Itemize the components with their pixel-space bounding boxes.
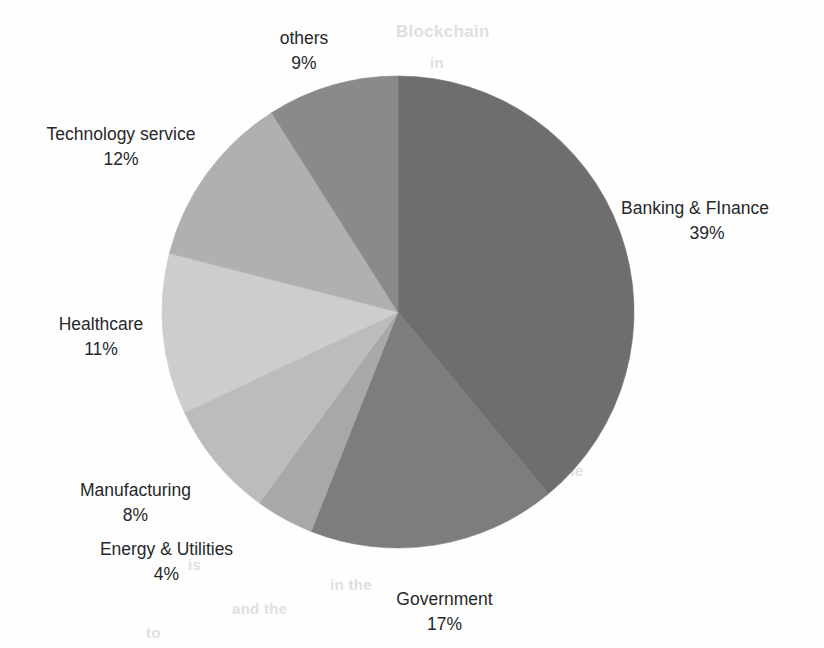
slice-label-technology-service-percent: 12%: [6, 147, 236, 172]
slice-label-banking-finance-percent: 39%: [621, 221, 793, 246]
pie-chart: others 9% Technology service 12% Healthc…: [0, 0, 824, 648]
slice-label-technology-service: Technology service 12%: [6, 122, 236, 172]
slice-label-healthcare-percent: 11%: [6, 337, 196, 362]
slice-label-manufacturing-name: Manufacturing: [28, 478, 243, 503]
chart-page: Blockchaininofthetoisin theand theto oth…: [0, 0, 824, 648]
slice-label-government-name: Government: [342, 587, 547, 612]
slice-label-manufacturing-percent: 8%: [28, 503, 243, 528]
slice-label-government: Government 17%: [342, 587, 547, 637]
slice-label-banking-finance: Banking & FInance 39%: [621, 196, 821, 246]
slice-label-banking-finance-name: Banking & FInance: [621, 196, 821, 221]
slice-label-others: others 9%: [199, 26, 409, 76]
slice-label-healthcare-name: Healthcare: [6, 312, 196, 337]
slice-label-manufacturing: Manufacturing 8%: [28, 478, 243, 528]
slice-label-energy-utilities-name: Energy & Utilities: [44, 537, 289, 562]
slice-label-technology-service-name: Technology service: [6, 122, 236, 147]
slice-label-government-percent: 17%: [342, 612, 547, 637]
slice-label-energy-utilities: Energy & Utilities 4%: [44, 537, 289, 587]
slice-label-energy-utilities-percent: 4%: [44, 562, 289, 587]
slice-label-others-name: others: [199, 26, 409, 51]
slice-label-others-percent: 9%: [199, 51, 409, 76]
slice-label-healthcare: Healthcare 11%: [6, 312, 196, 362]
